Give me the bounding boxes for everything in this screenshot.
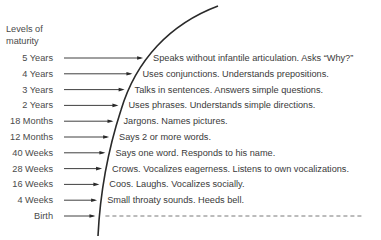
- level-description: Coos. Laughs. Vocalizes socially.: [109, 179, 244, 189]
- arrowhead-icon: [108, 119, 114, 123]
- arrowhead-icon: [103, 135, 109, 139]
- level-description: Talks in sentences. Answers simple quest…: [135, 85, 323, 95]
- level-description: Says 2 or more words.: [119, 132, 211, 142]
- level-description: Speaks without infantile articulation. A…: [153, 53, 353, 63]
- level-description: Uses phrases. Understands simple directi…: [128, 100, 315, 110]
- level-description: Says one word. Responds to his name.: [115, 148, 275, 158]
- axis-title-line2: maturity: [6, 36, 39, 46]
- level-description: Uses conjunctions. Understands prepositi…: [142, 69, 328, 79]
- level-label: 2 Years: [22, 100, 53, 110]
- arrowhead-icon: [119, 88, 125, 92]
- arrowhead-icon: [91, 198, 97, 202]
- arrowhead-icon: [137, 56, 143, 60]
- level-label: 12 Months: [10, 132, 53, 142]
- arrowhead-icon: [126, 72, 132, 76]
- arrowhead-icon: [93, 183, 99, 187]
- axis-title-line1: Levels of: [6, 24, 43, 34]
- arrowhead-icon: [99, 151, 105, 155]
- level-description: Crows. Vocalizes eagerness. Listens to o…: [112, 164, 349, 174]
- level-label: 4 Weeks: [17, 195, 53, 205]
- level-label: Birth: [34, 211, 53, 221]
- level-label: 16 Weeks: [12, 179, 53, 189]
- level-label: 5 Years: [22, 53, 53, 63]
- level-label: 28 Weeks: [12, 164, 53, 174]
- level-label: 4 Years: [22, 69, 53, 79]
- level-description: Jargons. Names pictures.: [124, 116, 228, 126]
- level-description: Small throaty sounds. Heeds bell.: [107, 195, 244, 205]
- level-label: 18 Months: [10, 116, 53, 126]
- arrowhead-icon: [112, 104, 118, 108]
- arrowhead-icon: [96, 167, 102, 171]
- arrowhead-icon: [89, 214, 95, 218]
- language-development-diagram: Levels of maturity 5 YearsSpeaks without…: [0, 0, 381, 240]
- level-label: 3 Years: [22, 85, 53, 95]
- level-label: 40 Weeks: [12, 148, 53, 158]
